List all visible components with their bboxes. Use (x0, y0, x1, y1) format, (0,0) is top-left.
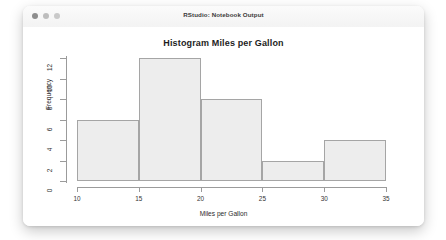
histogram-bar (201, 99, 263, 181)
rstudio-notebook-window: RStudio: Notebook Output Histogram Miles… (23, 6, 424, 226)
x-axis-tick-label: 30 (314, 195, 334, 202)
x-axis-tick-label: 20 (191, 195, 211, 202)
window-titlebar[interactable]: RStudio: Notebook Output (23, 6, 424, 28)
x-axis-tick (139, 187, 140, 192)
x-axis-tick (77, 187, 78, 192)
x-axis-tick (324, 187, 325, 192)
bars-layer (77, 58, 386, 181)
histogram-plot: Histogram Miles per Gallon Frequency Mil… (23, 27, 424, 226)
x-axis-tick-label: 25 (252, 195, 272, 202)
y-axis-tick-label: 10 (46, 78, 53, 98)
y-axis-line (66, 56, 67, 183)
y-axis-tick-label: 2 (46, 160, 53, 180)
y-axis-tick-label: 12 (46, 58, 53, 78)
histogram-bar (139, 58, 201, 181)
y-axis-tick (60, 99, 66, 100)
y-axis-tick-label: 8 (46, 99, 53, 119)
x-axis-tick (201, 187, 202, 192)
histogram-bar (262, 161, 324, 182)
chart-title: Histogram Miles per Gallon (23, 38, 424, 48)
x-axis-tick (262, 187, 263, 192)
y-axis-tick-label: 0 (46, 181, 53, 201)
y-axis-tick-label: 4 (46, 140, 53, 160)
x-axis-tick (386, 187, 387, 192)
y-axis-tick (60, 58, 66, 59)
y-axis-tick (60, 120, 66, 121)
y-axis-tick (60, 79, 66, 80)
x-axis-tick-label: 10 (67, 195, 87, 202)
histogram-bar (77, 120, 139, 182)
x-axis-title: Miles per Gallon (23, 210, 424, 217)
x-axis-tick-label: 15 (129, 195, 149, 202)
y-axis-tick-label: 6 (46, 119, 53, 139)
window-title: RStudio: Notebook Output (23, 11, 424, 18)
histogram-bar (324, 140, 386, 181)
y-axis-tick (60, 140, 66, 141)
y-axis-tick (60, 181, 66, 182)
y-axis-tick (60, 161, 66, 162)
x-axis-tick-label: 35 (376, 195, 396, 202)
screen: RStudio: Notebook Output Histogram Miles… (0, 0, 446, 240)
x-axis-line (77, 187, 387, 188)
